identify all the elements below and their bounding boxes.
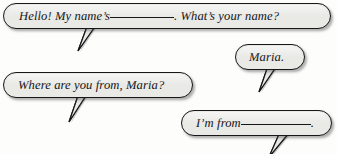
bubble-4-blank-line[interactable]	[241, 124, 311, 125]
speech-bubble-1-text: Hello! My name’s. What’s your name?	[4, 9, 330, 24]
bubble-1-text-before-blank: Hello! My name’s	[19, 9, 110, 23]
bubble-4-text-before-blank: I’m from	[196, 116, 241, 130]
speech-bubble-3-text: Maria.	[236, 50, 304, 65]
bubble-1-blank-line[interactable]	[110, 17, 174, 18]
speech-bubble-tail-3	[252, 66, 282, 94]
worksheet-canvas: Hello! My name’s. What’s your name? Wher…	[0, 0, 337, 154]
speech-bubble-2[interactable]: Where are you from, Maria?	[3, 72, 193, 98]
bubble-4-text-after-blank: .	[311, 116, 314, 130]
speech-bubble-1[interactable]: Hello! My name’s. What’s your name?	[3, 3, 331, 29]
speech-bubble-3[interactable]: Maria.	[235, 44, 305, 70]
bubble-1-text-after-blank: . What’s your name?	[174, 9, 279, 23]
speech-bubble-2-text: Where are you from, Maria?	[4, 78, 192, 93]
speech-bubble-4-text: I’m from.	[182, 116, 331, 131]
speech-bubble-4[interactable]: I’m from.	[181, 110, 332, 136]
